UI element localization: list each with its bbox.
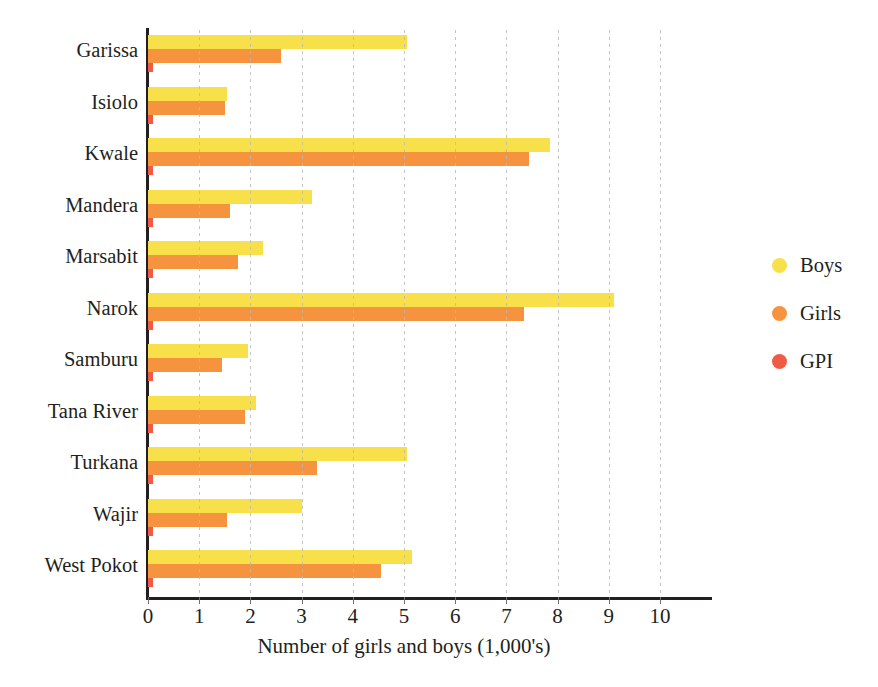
gridline [609,30,610,597]
x-axis-tick-label: 7 [486,604,526,629]
bar-girls [148,513,227,527]
x-axis-tick [455,597,456,604]
x-axis-tick [148,597,149,604]
category-label: Garissa [0,40,138,61]
bar-boys [148,447,407,461]
bar-gpi [148,321,153,330]
x-axis-tick [250,597,251,604]
gridline [199,30,200,597]
x-axis-tick [506,597,507,604]
legend-swatch-icon [772,354,787,369]
x-axis-tick [558,597,559,604]
bar-boys [148,138,550,152]
x-axis-tick [199,597,200,604]
bar-boys [148,499,302,513]
x-axis-tick-label: 1 [179,604,219,629]
gridline [302,30,303,597]
bar-boys [148,344,248,358]
bar-girls [148,564,381,578]
legend-label: GPI [800,348,833,376]
bar-gpi [148,269,153,278]
bar-girls [148,307,524,321]
bar-girls [148,152,529,166]
category-label: West Pokot [0,555,138,576]
legend-label: Boys [800,252,842,280]
x-axis-tick-label: 0 [128,604,168,629]
bar-girls [148,358,222,372]
bar-boys [148,35,407,49]
category-label: Isiolo [0,92,138,113]
x-axis-tick [660,597,661,604]
x-axis-tick-label: 2 [230,604,270,629]
category-label: Samburu [0,349,138,370]
bar-boys [148,190,312,204]
bar-gpi [148,527,153,536]
x-axis-tick [609,597,610,604]
bar-girls [148,461,317,475]
bar-girls [148,410,245,424]
category-label: Tana River [0,401,138,422]
bar-boys [148,293,614,307]
gridline [404,30,405,597]
x-axis-tick [404,597,405,604]
category-label: Mandera [0,195,138,216]
bar-boys [148,241,263,255]
category-label: Wajir [0,504,138,525]
x-axis-tick-label: 9 [589,604,629,629]
x-axis-line [146,597,712,600]
gridline [455,30,456,597]
bar-gpi [148,63,153,72]
x-axis-tick-label: 3 [282,604,322,629]
legend-label: Girls [800,300,841,328]
gridline [250,30,251,597]
bar-girls [148,101,225,115]
x-axis-tick-label: 5 [384,604,424,629]
category-label: Narok [0,298,138,319]
bar-gpi [148,218,153,227]
bar-boys [148,396,256,410]
category-label: Marsabit [0,246,138,267]
bar-boys [148,87,227,101]
gridline [660,30,661,597]
x-axis-tick-label: 8 [538,604,578,629]
x-axis-tick-label: 6 [435,604,475,629]
category-label: Kwale [0,143,138,164]
legend-swatch-icon [772,258,787,273]
bar-gpi [148,424,153,433]
bar-gpi [148,166,153,175]
legend-swatch-icon [772,306,787,321]
x-axis-tick-label: 10 [640,604,680,629]
bar-gpi [148,475,153,484]
bar-girls [148,204,230,218]
gridline [558,30,559,597]
gridline [506,30,507,597]
bar-gpi [148,578,153,587]
category-label: Turkana [0,452,138,473]
x-axis-tick [302,597,303,604]
gridline [353,30,354,597]
bar-girls [148,49,281,63]
x-axis-tick-label: 4 [333,604,373,629]
x-axis-title: Number of girls and boys (1,000's) [148,634,660,659]
bar-gpi [148,115,153,124]
x-axis-tick [353,597,354,604]
bar-chart: 012345678910 GarissaIsioloKwaleManderaMa… [0,0,878,687]
bar-girls [148,255,238,269]
bar-gpi [148,372,153,381]
bar-boys [148,550,412,564]
